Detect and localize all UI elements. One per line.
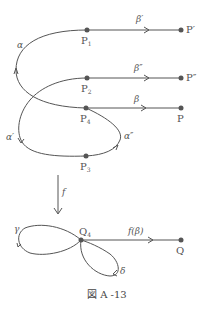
label-P: P [177, 114, 184, 124]
point-P4 [84, 106, 89, 111]
label-Pprime: P′ [186, 25, 195, 35]
label-P1: P1 [81, 36, 92, 47]
diagram-canvas [0, 0, 210, 313]
path-alpha [16, 30, 87, 108]
label-Q: Q [176, 246, 184, 256]
label-alpha: α [17, 41, 23, 50]
label-delta: δ [120, 267, 125, 276]
path-delta [81, 240, 119, 276]
label-beta: β [134, 95, 139, 104]
path-alpha-prime [19, 78, 87, 156]
label-P3: P3 [80, 162, 91, 173]
label-f-beta: f(β) [128, 227, 144, 236]
point-Pprime [179, 28, 184, 33]
label-beta-dprime: β″ [134, 64, 143, 73]
point-P2 [85, 76, 90, 81]
point-P1 [85, 28, 90, 33]
label-gamma: γ [14, 225, 19, 234]
path-alpha-dprime [86, 108, 121, 156]
label-Pdprime: P″ [186, 73, 196, 83]
figure-caption: 図 A -13 [87, 290, 127, 300]
label-P4: P4 [80, 114, 91, 125]
point-Pdprime [179, 76, 184, 81]
label-P2: P2 [81, 84, 92, 95]
point-Q4 [79, 238, 84, 243]
label-alpha-dprime: α″ [124, 132, 133, 141]
label-map-f: f [62, 188, 65, 197]
point-Q [179, 238, 184, 243]
label-alpha-prime: α′ [6, 133, 14, 142]
label-beta-prime: β′ [136, 15, 143, 24]
point-P3 [84, 154, 89, 159]
label-Q4: Q4 [79, 227, 91, 238]
path-gamma [19, 225, 81, 254]
point-P [179, 106, 184, 111]
